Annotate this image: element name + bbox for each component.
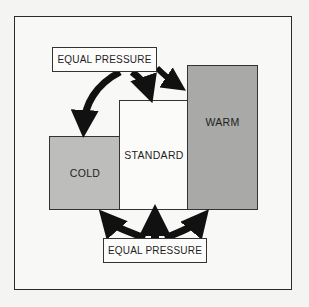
arrow-top-to-standard-icon (132, 72, 148, 90)
arrow-bottom-to-cold-icon (108, 220, 145, 238)
equal-pressure-bottom-text: EQUAL PRESSURE (108, 245, 202, 256)
arrow-top-to-warm-icon (157, 68, 176, 84)
equal-pressure-top-label: EQUAL PRESSURE (52, 47, 157, 72)
equal-pressure-top-text: EQUAL PRESSURE (57, 54, 151, 65)
arrow-top-to-cold-icon (84, 72, 120, 124)
arrow-bottom-to-warm-icon (165, 220, 200, 238)
equal-pressure-bottom-label: EQUAL PRESSURE (103, 238, 207, 263)
